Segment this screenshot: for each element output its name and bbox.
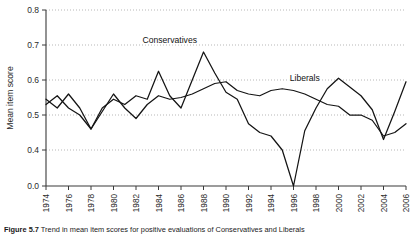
x-tick-label: 1982 bbox=[132, 194, 141, 213]
y-tick-label: 0.4 bbox=[27, 145, 39, 155]
y-tick-label: 0.6 bbox=[27, 75, 39, 85]
x-tick-label: 1996 bbox=[290, 194, 299, 213]
series-label-liberals: Liberals bbox=[290, 73, 320, 83]
y-tick-label: 0.8 bbox=[27, 5, 39, 15]
x-tick-label: 1998 bbox=[312, 194, 321, 213]
y-axis-title: Mean item score bbox=[5, 66, 15, 130]
x-tick-label: 1984 bbox=[155, 194, 164, 213]
y-tick-label: 0.7 bbox=[27, 40, 39, 50]
x-tick-label: 1978 bbox=[87, 194, 96, 213]
chart-figure: 0.00.40.50.60.70.8 197419761978198019821… bbox=[0, 0, 415, 234]
x-tick-label: 1988 bbox=[200, 194, 209, 213]
x-tick-label: 2000 bbox=[335, 194, 344, 213]
y-tick-label: 0.5 bbox=[27, 110, 39, 120]
x-tick-label: 2004 bbox=[380, 194, 389, 213]
figure-caption-number: Figure 5.7 bbox=[4, 225, 39, 234]
figure-caption: Figure 5.7 Trend in mean item scores for… bbox=[4, 225, 415, 234]
figure-caption-text: Trend in mean item scores for positive e… bbox=[41, 225, 305, 234]
x-tick-label: 1992 bbox=[245, 194, 254, 213]
x-tick-label: 1976 bbox=[65, 194, 74, 213]
x-tick-label: 1974 bbox=[42, 194, 51, 213]
x-tick-label: 2002 bbox=[357, 194, 366, 213]
x-tick-label: 1980 bbox=[110, 194, 119, 213]
y-tick-label: 0.0 bbox=[27, 181, 39, 191]
series-label-conservatives: Conservatives bbox=[143, 35, 197, 45]
x-tick-label: 1994 bbox=[267, 194, 276, 213]
x-tick-label: 2006 bbox=[402, 194, 411, 213]
x-tick-label: 1990 bbox=[222, 194, 231, 213]
x-tick-label: 1986 bbox=[177, 194, 186, 213]
